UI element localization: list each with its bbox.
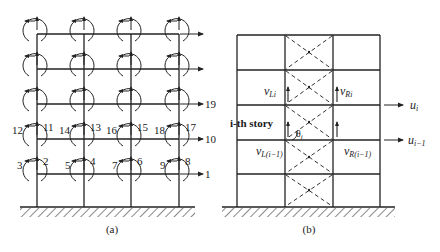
dof-label: 14 <box>59 124 71 136</box>
dof-label: 15 <box>137 121 149 133</box>
dof-label: 3 <box>17 159 23 171</box>
panel-b-horizontal-arrows <box>384 105 403 140</box>
dof-label: 7 <box>112 159 118 171</box>
dof-label: 16 <box>106 124 118 136</box>
dof-label-10: 10 <box>205 133 217 145</box>
panel-b-brace-centers <box>308 51 310 191</box>
dof-label: 9 <box>160 159 166 171</box>
dof-label: 5 <box>65 159 71 171</box>
v-left-lower-label: vL(i−1) <box>256 144 283 159</box>
dof-label: 8 <box>185 155 191 167</box>
dof-label: 12 <box>12 124 23 136</box>
dof-label: 13 <box>90 121 102 133</box>
panel-b-ground-hatch <box>222 208 395 217</box>
story-label: i-th story <box>230 117 274 129</box>
dof-label: 11 <box>43 121 54 133</box>
panel-a-caption: (a) <box>106 223 119 236</box>
panel-b-caption: (b) <box>303 223 316 236</box>
dof-label: 2 <box>43 155 49 167</box>
dof-label: 17 <box>185 121 197 133</box>
theta-label: θi <box>296 128 303 141</box>
dof-label-19: 19 <box>205 98 217 110</box>
v-right-lower-label: vR(i−1) <box>344 144 372 159</box>
dof-label: 6 <box>137 155 143 167</box>
v-left-upper-label: vLi <box>264 84 276 99</box>
u-lower-label: ui−1 <box>408 133 426 148</box>
v-right-upper-label: vRi <box>340 84 352 99</box>
dof-label: 18 <box>154 124 166 136</box>
panel-a-ground-hatch <box>20 208 195 217</box>
u-upper-label: ui <box>410 98 418 113</box>
dof-label: 4 <box>90 155 96 167</box>
dof-label-1: 1 <box>205 168 211 180</box>
figure-canvas: 19 10 1 12 11 14 13 16 15 18 17 3 2 5 4 … <box>0 0 440 252</box>
